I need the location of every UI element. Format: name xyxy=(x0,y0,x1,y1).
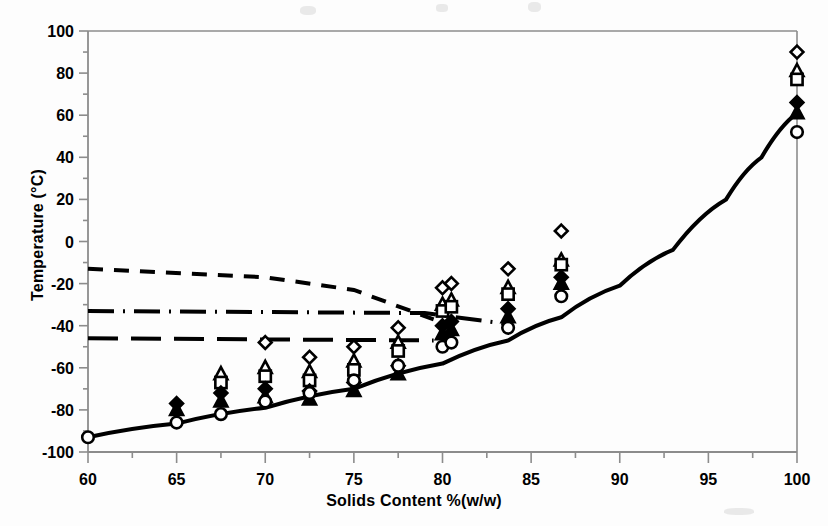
x-axis-tick-label: 80 xyxy=(434,471,452,488)
y-axis-tick-label: 80 xyxy=(56,65,74,82)
x-axis-tick-label: 65 xyxy=(168,471,186,488)
y-axis-tick-label: -100 xyxy=(42,444,74,461)
data-point-open-diamond xyxy=(791,46,804,59)
y-axis-title: Temperature (°C) xyxy=(29,105,47,365)
x-axis-tick-label: 100 xyxy=(784,471,811,488)
data-point-open-diamond xyxy=(392,321,405,334)
data-point-open-circle xyxy=(171,417,183,429)
y-axis-tick-label: 100 xyxy=(47,23,74,40)
data-point-open-circle xyxy=(791,126,803,138)
data-point-open-square xyxy=(791,74,802,85)
data-point-open-circle xyxy=(502,322,514,334)
data-point-open-square xyxy=(446,301,457,312)
data-point-open-diamond xyxy=(347,340,360,353)
x-axis-tick-label: 60 xyxy=(79,471,97,488)
plot-canvas: -100-80-60-40-20020406080100606570758085… xyxy=(0,0,828,526)
data-point-open-square xyxy=(393,345,404,356)
y-axis-tick-label: 20 xyxy=(56,191,74,208)
y-axis-tick-label: -80 xyxy=(51,402,74,419)
x-axis-tick-label: 95 xyxy=(699,471,717,488)
x-axis-tick-label: 75 xyxy=(345,471,363,488)
data-point-open-circle xyxy=(446,337,458,349)
data-point-open-diamond xyxy=(502,262,515,275)
data-point-open-diamond xyxy=(555,225,568,238)
data-point-open-square xyxy=(260,371,271,382)
x-axis-tick-label: 85 xyxy=(522,471,540,488)
data-point-open-circle xyxy=(392,360,404,372)
chart-figure: -100-80-60-40-20020406080100606570758085… xyxy=(0,0,828,526)
y-axis-tick-label: -40 xyxy=(51,318,74,335)
data-point-open-circle xyxy=(82,431,94,443)
x-axis-tick-label: 70 xyxy=(256,471,274,488)
data-point-open-circle xyxy=(304,387,316,399)
y-axis-tick-label: 0 xyxy=(65,234,74,251)
y-axis-tick-label: 40 xyxy=(56,149,74,166)
y-axis-tick-label: -60 xyxy=(51,360,74,377)
data-point-open-circle xyxy=(259,396,271,408)
x-axis-tick-label: 90 xyxy=(611,471,629,488)
data-point-open-circle xyxy=(555,290,567,302)
data-point-filled-triangle xyxy=(791,106,804,118)
data-point-open-square xyxy=(502,289,513,300)
x-axis-title: Solids Content %(w/w) xyxy=(0,492,828,510)
data-point-open-square xyxy=(556,259,567,270)
data-point-open-circle xyxy=(348,375,360,387)
y-axis-tick-label: -20 xyxy=(51,276,74,293)
data-point-open-diamond xyxy=(303,351,316,364)
data-point-open-circle xyxy=(215,408,227,420)
y-axis-tick-label: 60 xyxy=(56,107,74,124)
